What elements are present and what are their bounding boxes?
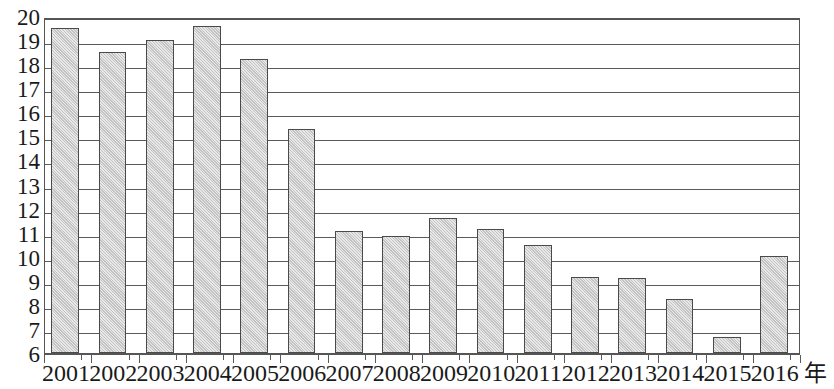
bar — [524, 245, 552, 353]
x-axis: 年 20012002200320042005200620072008200920… — [44, 358, 834, 389]
y-tick-label: 13 — [2, 175, 40, 198]
bar — [193, 26, 221, 353]
bar — [51, 28, 79, 353]
y-tick-label: 9 — [2, 271, 40, 294]
bar-chart: 20191817161514131211109876 年 20012002200… — [0, 0, 834, 389]
x-tick-label: 2006 — [278, 358, 325, 388]
x-tick-label: 2015 — [704, 358, 751, 388]
x-tick-label: 2013 — [609, 358, 656, 388]
bar — [99, 52, 127, 353]
bar — [666, 299, 694, 353]
y-axis: 20191817161514131211109876 — [0, 0, 40, 389]
x-axis-unit-label: 年 — [804, 358, 827, 388]
bars-group — [45, 20, 799, 353]
bar — [146, 40, 174, 353]
y-tick-label: 18 — [2, 54, 40, 77]
x-tick-label: 2005 — [231, 358, 278, 388]
y-tick-label: 19 — [2, 30, 40, 53]
x-tick-label: 2001 — [42, 358, 89, 388]
x-tick-label: 2009 — [420, 358, 467, 388]
bar — [571, 277, 599, 353]
y-tick-label: 10 — [2, 247, 40, 270]
x-tick-label: 2004 — [184, 358, 231, 388]
bar — [713, 337, 741, 353]
x-tick-label: 2002 — [89, 358, 136, 388]
y-tick-label: 14 — [2, 150, 40, 173]
y-tick-label: 8 — [2, 295, 40, 318]
bar — [429, 218, 457, 353]
x-tick-label: 2007 — [326, 358, 373, 388]
x-tick-label: 2003 — [137, 358, 184, 388]
y-tick-label: 6 — [2, 343, 40, 366]
bar — [618, 278, 646, 353]
x-tick-label: 2016 — [751, 358, 798, 388]
bar — [760, 256, 788, 353]
y-tick-label: 12 — [2, 199, 40, 222]
x-tick-label: 2011 — [515, 358, 562, 388]
bar — [288, 129, 316, 353]
y-tick-label: 16 — [2, 102, 40, 125]
plot-area — [44, 18, 800, 355]
bar — [477, 229, 505, 353]
bar — [382, 236, 410, 353]
bar — [240, 59, 268, 353]
x-tick-label: 2008 — [373, 358, 420, 388]
y-tick-label: 20 — [2, 6, 40, 29]
y-tick-label: 11 — [2, 223, 40, 246]
x-tick-label: 2010 — [467, 358, 514, 388]
bar — [335, 231, 363, 353]
y-tick-label: 15 — [2, 126, 40, 149]
x-tick-label: 2012 — [562, 358, 609, 388]
y-tick-label: 17 — [2, 78, 40, 101]
y-tick-label: 7 — [2, 319, 40, 342]
x-tick-label: 2014 — [656, 358, 703, 388]
